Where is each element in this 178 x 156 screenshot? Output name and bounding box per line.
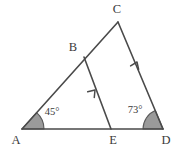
vertex-label-d: D: [161, 133, 170, 147]
geometry-figure: A B C D E 45° 73°: [0, 0, 178, 156]
parallel-arrow-mark-be: [88, 90, 95, 97]
angle-wedge-d: [143, 111, 163, 129]
angle-label-a: 45°: [45, 106, 60, 117]
vertex-label-b: B: [69, 40, 77, 54]
geometry-diagram: A B C D E 45° 73°: [0, 0, 178, 156]
angle-wedge-a: [22, 113, 44, 129]
vertex-label-c: C: [113, 2, 121, 16]
segment-ac: [22, 22, 118, 129]
angle-label-d: 73°: [128, 104, 143, 115]
vertex-label-a: A: [11, 133, 20, 147]
vertex-label-e: E: [109, 133, 117, 147]
segment-be: [84, 57, 111, 129]
